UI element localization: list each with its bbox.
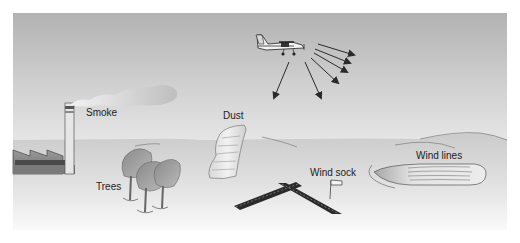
label-wind-lines: Wind lines bbox=[416, 150, 462, 161]
wind-indicators-diagram: Smoke Dust Trees Wind sock Wind lines bbox=[0, 0, 520, 243]
label-trees: Trees bbox=[96, 181, 121, 192]
label-smoke: Smoke bbox=[86, 107, 117, 118]
label-dust: Dust bbox=[223, 110, 244, 121]
smokestack bbox=[65, 103, 74, 174]
diagram-canvas bbox=[0, 0, 520, 243]
label-wind-sock: Wind sock bbox=[310, 167, 356, 178]
sky bbox=[13, 13, 507, 143]
